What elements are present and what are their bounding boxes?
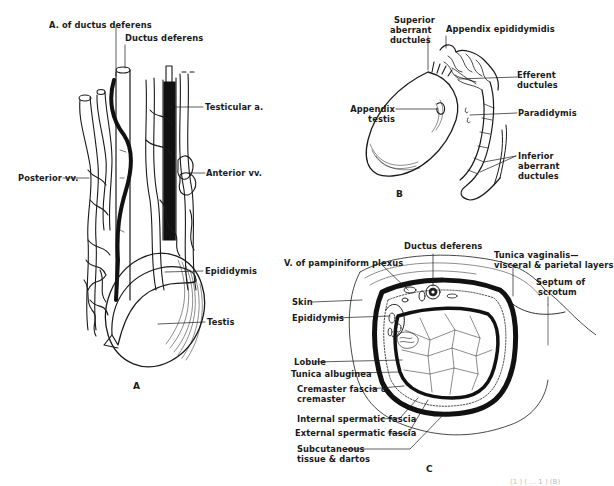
- panel-a-drawing: [79, 66, 221, 382]
- label-appendix-testis-1: Appendix: [340, 104, 395, 114]
- label-inferior-aberrant-1: Inferior: [518, 151, 554, 161]
- label-skin: Skin: [292, 297, 313, 307]
- label-epididymis-a: Epididymis: [205, 266, 257, 276]
- label-septum-1: Septum of: [536, 277, 585, 287]
- label-subcutaneous-2: tissue & dartos: [297, 454, 370, 464]
- panel-caption-a: A: [133, 381, 140, 391]
- label-superior-aberrant-2: aberrant: [390, 25, 428, 35]
- label-subcutaneous-1: Subcutaneous: [297, 444, 365, 454]
- footer-fragment: (1 ) ( ... 1 ) (B): [510, 478, 560, 486]
- label-ductus-deferens-c: Ductus deferens: [404, 241, 482, 251]
- label-ductus-deferens-a: Ductus deferens: [125, 33, 203, 43]
- label-v-pampiniform-plexus: V. of pampiniform plexus: [284, 258, 403, 268]
- label-cremaster-2: cremaster: [297, 394, 345, 404]
- label-tunica-albuginea: Tunica albuginea: [291, 369, 372, 379]
- label-paradidymis: Paradidymis: [518, 108, 577, 118]
- label-testis: Testis: [207, 317, 234, 327]
- label-posterior-vv: Posterior vv.: [18, 173, 79, 183]
- label-tunica-vaginalis-1: Tunica vaginalis—: [494, 250, 579, 260]
- label-inferior-aberrant-2: aberrant: [518, 161, 560, 171]
- label-testicular-a: Testicular a.: [205, 102, 263, 112]
- label-septum-2: scrotum: [538, 287, 577, 297]
- label-a-of-ductus-deferens: A. of ductus deferens: [49, 20, 152, 30]
- label-cremaster-1: Cremaster fascia &: [297, 384, 388, 394]
- label-inferior-aberrant-3: ductules: [518, 171, 559, 181]
- label-anterior-vv: Anterior vv.: [206, 168, 262, 178]
- panel-caption-b: B: [396, 189, 403, 199]
- label-efferent-2: ductules: [517, 80, 558, 90]
- label-lobule: Lobule: [294, 357, 326, 367]
- panel-caption-c: C: [426, 464, 433, 474]
- label-appendix-testis-2: testis: [340, 114, 395, 124]
- label-efferent-1: Efferent: [517, 70, 556, 80]
- label-appendix-epididymidis: Appendix epididymidis: [446, 24, 555, 34]
- label-epididymis-c: Epididymis: [292, 313, 344, 323]
- label-internal-spermatic-fascia: Internal spermatic fascia: [297, 414, 416, 424]
- label-superior-aberrant-3: ductules: [390, 35, 428, 45]
- label-external-spermatic-fascia: External spermatic fascia: [295, 428, 416, 438]
- label-tunica-vaginalis-2: visceral & parietal layers: [494, 260, 614, 270]
- label-superior-aberrant-1: Superior: [394, 15, 428, 25]
